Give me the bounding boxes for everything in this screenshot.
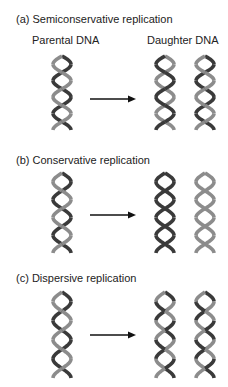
helix-strand-2-segment — [62, 105, 71, 113]
helix-strand-1-segment — [165, 217, 174, 226]
arrow-head — [128, 332, 136, 339]
panel-c-parental-helix — [50, 292, 74, 378]
panel-c-arrow — [90, 331, 136, 339]
helix-strand-1-segment — [53, 226, 62, 235]
helix-strand-2-segment — [62, 235, 71, 244]
helix-strand-2-segment — [53, 217, 62, 226]
parental-dna-label: Parental DNA — [32, 35, 99, 46]
helix-strand-2-segment — [205, 81, 214, 89]
helix-strand-2-segment — [196, 182, 205, 191]
helix-strand-1-segment — [165, 302, 174, 312]
helix-strand-2-segment — [62, 359, 71, 369]
helix-strand-2-segment — [53, 64, 62, 72]
helix-strand-1-segment — [156, 359, 165, 369]
helix-strand-2-segment — [165, 311, 174, 321]
helix-strand-2-segment — [156, 340, 165, 350]
helix-strand-1-segment — [62, 340, 71, 350]
helix-strand-1-segment — [53, 349, 62, 359]
helix-strand-2-segment — [53, 330, 62, 340]
helix-strand-2-segment — [165, 200, 174, 209]
helix-strand-1-segment — [156, 200, 165, 209]
helix-strand-2-segment — [196, 292, 205, 302]
helix-strand-2-segment — [165, 359, 174, 369]
panel-c-daughter-helix-2 — [193, 292, 217, 378]
helix-strand-1-segment — [62, 56, 71, 64]
helix-strand-1-segment — [165, 244, 174, 253]
helix-strand-2-segment — [205, 72, 214, 80]
panel-a-title: (a) Semiconservative replication — [16, 14, 173, 25]
helix-strand-2-segment — [205, 226, 214, 235]
helix-strand-2-segment — [165, 105, 174, 113]
helix-strand-1-segment — [62, 292, 71, 302]
helix-strand-1-segment — [205, 173, 214, 182]
helix-strand-1-segment — [205, 209, 214, 218]
helix-strand-1-segment — [205, 217, 214, 226]
helix-strand-2-segment — [165, 114, 174, 122]
helix-strand-1-segment — [165, 173, 174, 182]
panel-b-daughter-helix-2 — [193, 173, 217, 253]
helix-strand-2-segment — [53, 89, 62, 97]
helix-strand-2-segment — [196, 56, 205, 64]
helix-strand-1-segment — [205, 330, 214, 340]
helix-strand-2-segment — [53, 292, 62, 302]
helix-strand-1-segment — [165, 330, 174, 340]
helix-strand-2-segment — [53, 244, 62, 253]
helix-strand-2-segment — [196, 209, 205, 218]
helix-strand-1-segment — [165, 56, 174, 64]
helix-strand-2-segment — [165, 226, 174, 235]
helix-strand-2-segment — [156, 89, 165, 97]
helix-strand-2-segment — [53, 340, 62, 350]
helix-strand-1-segment — [53, 311, 62, 321]
helix-strand-2-segment — [156, 173, 165, 182]
helix-strand-1-segment — [53, 235, 62, 244]
helix-strand-2-segment — [205, 200, 214, 209]
helix-strand-2-segment — [53, 97, 62, 105]
helix-strand-1-segment — [62, 217, 71, 226]
helix-strand-2-segment — [156, 217, 165, 226]
helix-strand-2-segment — [156, 292, 165, 302]
helix-strand-1-segment — [196, 235, 205, 244]
helix-strand-2-segment — [53, 173, 62, 182]
helix-strand-2-segment — [165, 321, 174, 331]
helix-strand-1-segment — [53, 321, 62, 331]
helix-strand-2-segment — [62, 72, 71, 80]
helix-strand-1-segment — [205, 368, 214, 378]
helix-strand-2-segment — [53, 209, 62, 218]
helix-strand-2-segment — [196, 217, 205, 226]
helix-strand-2-segment — [205, 235, 214, 244]
helix-strand-2-segment — [196, 244, 205, 253]
helix-strand-2-segment — [62, 349, 71, 359]
helix-strand-1-segment — [205, 182, 214, 191]
panel-a-parental-helix — [50, 56, 74, 130]
helix-strand-1-segment — [196, 359, 205, 369]
helix-strand-2-segment — [196, 64, 205, 72]
panel-a-daughter-helix-2 — [193, 56, 217, 130]
helix-strand-2-segment — [196, 173, 205, 182]
helix-strand-1-segment — [62, 330, 71, 340]
helix-strand-2-segment — [165, 349, 174, 359]
helix-strand-1-segment — [205, 340, 214, 350]
helix-strand-2-segment — [156, 368, 165, 378]
helix-strand-1-segment — [205, 302, 214, 312]
helix-strand-1-segment — [62, 244, 71, 253]
helix-strand-2-segment — [156, 97, 165, 105]
helix-strand-2-segment — [53, 56, 62, 64]
helix-strand-1-segment — [196, 200, 205, 209]
helix-strand-2-segment — [156, 56, 165, 64]
helix-strand-1-segment — [196, 191, 205, 200]
panel-b-daughter-helix-1 — [153, 173, 177, 253]
helix-strand-2-segment — [53, 302, 62, 312]
arrow-head — [128, 96, 136, 103]
helix-strand-1-segment — [205, 56, 214, 64]
helix-strand-2-segment — [156, 244, 165, 253]
helix-strand-1-segment — [62, 368, 71, 378]
panel-b-arrow — [90, 211, 136, 219]
helix-strand-2-segment — [196, 302, 205, 312]
helix-strand-2-segment — [156, 182, 165, 191]
helix-strand-1-segment — [156, 349, 165, 359]
helix-strand-2-segment — [62, 191, 71, 200]
helix-strand-1-segment — [53, 191, 62, 200]
helix-strand-2-segment — [62, 81, 71, 89]
helix-strand-1-segment — [156, 321, 165, 331]
helix-strand-2-segment — [205, 321, 214, 331]
